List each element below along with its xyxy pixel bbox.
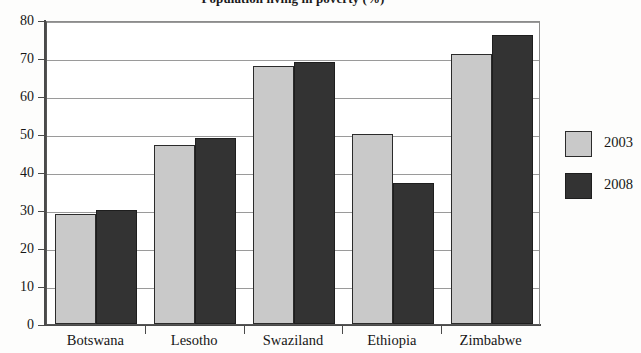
bar-lesotho-2003 xyxy=(154,145,195,324)
y-axis-tick xyxy=(38,287,46,288)
x-axis-tick xyxy=(342,325,343,334)
legend-label-2003: 2003 xyxy=(604,134,633,151)
y-axis-tick xyxy=(38,21,46,22)
y-axis-label: 10 xyxy=(0,279,34,295)
bar-swaziland-2003 xyxy=(253,66,294,324)
x-axis-label-botswana: Botswana xyxy=(67,332,124,349)
y-axis-label: 50 xyxy=(0,127,34,143)
bar-botswana-2008 xyxy=(96,210,137,324)
y-axis-label: 70 xyxy=(0,51,34,67)
chart-figure: Population living in poverty (%) 0102030… xyxy=(0,0,641,353)
x-axis-label-zimbabwe: Zimbabwe xyxy=(460,332,522,349)
x-axis-tick xyxy=(145,325,146,334)
bar-botswana-2003 xyxy=(55,214,96,324)
x-axis-label-swaziland: Swaziland xyxy=(263,332,323,349)
y-axis-label: 0 xyxy=(0,317,34,333)
y-axis-label: 20 xyxy=(0,241,34,257)
y-axis-label: 40 xyxy=(0,165,34,181)
y-axis-tick xyxy=(38,97,46,98)
chart-title: Population living in poverty (%) xyxy=(46,0,540,7)
legend-swatch-2003 xyxy=(565,131,592,157)
legend-label-2008: 2008 xyxy=(604,176,633,193)
plot-area xyxy=(46,21,540,325)
y-axis-tick xyxy=(38,325,46,326)
x-axis-tick xyxy=(441,325,442,334)
bar-lesotho-2008 xyxy=(195,138,236,324)
bar-zimbabwe-2003 xyxy=(451,54,492,324)
bar-ethiopia-2008 xyxy=(393,183,434,324)
y-axis-tick xyxy=(38,59,46,60)
x-axis-label-lesotho: Lesotho xyxy=(171,332,218,349)
bar-ethiopia-2003 xyxy=(352,134,393,324)
x-axis-tick xyxy=(244,325,245,334)
y-axis-label: 30 xyxy=(0,203,34,219)
y-axis-tick xyxy=(38,173,46,174)
y-axis-tick xyxy=(38,211,46,212)
gridline xyxy=(47,22,539,23)
bar-zimbabwe-2008 xyxy=(492,35,533,324)
y-axis-tick xyxy=(38,135,46,136)
bar-swaziland-2008 xyxy=(294,62,335,324)
y-axis-label: 80 xyxy=(0,13,34,29)
y-axis-label: 60 xyxy=(0,89,34,105)
y-axis-tick xyxy=(38,249,46,250)
x-axis-label-ethiopia: Ethiopia xyxy=(367,332,416,349)
legend-swatch-2008 xyxy=(565,173,592,199)
